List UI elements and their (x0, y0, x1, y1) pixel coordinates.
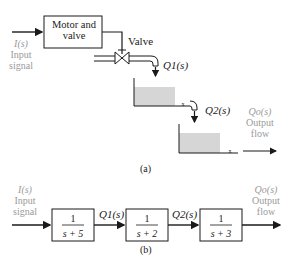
input-label-b: I(s) Input signal (8, 184, 42, 217)
block-3-num: 1 (200, 213, 242, 224)
output-label-a: Qo(s) Output flow (244, 106, 276, 139)
valve-actuator-line (102, 32, 122, 54)
q1-label-a: Q1(s) (163, 60, 188, 71)
valve-label: Valve (128, 36, 153, 47)
block-2-den: s + 2 (126, 228, 168, 239)
caption-a: (a) (140, 163, 151, 174)
output-symbol-b: Qo(s) (248, 184, 284, 195)
motor-box-label: Motor and valve (51, 19, 97, 41)
q1-label-b: Q1(s) (99, 209, 124, 220)
output-line2-b: flow (248, 206, 284, 217)
output-line1-b: Output (248, 195, 284, 206)
input-line1-b: Input (8, 195, 42, 206)
q2-label-a: Q2(s) (205, 105, 230, 116)
block-3-den: s + 3 (200, 228, 242, 239)
block-1-num: 1 (52, 213, 94, 224)
output-symbol: Qo(s) (244, 106, 276, 117)
block-2-num: 1 (126, 213, 168, 224)
svg-text:x: x (229, 148, 232, 154)
output-line1: Output (244, 117, 276, 128)
motor-line-1: Motor and (51, 19, 97, 30)
caption-b: (b) (140, 244, 152, 255)
input-line2-b: signal (8, 206, 42, 217)
input-symbol: I(s) (6, 38, 36, 49)
motor-line-2: valve (51, 30, 97, 41)
output-line2: flow (244, 128, 276, 139)
q2-label-b: Q2(s) (172, 209, 197, 220)
svg-text:x: x (182, 101, 185, 107)
input-symbol-b: I(s) (8, 184, 42, 195)
input-label-a: I(s) Input signal (6, 38, 36, 71)
output-label-b: Qo(s) Output flow (248, 184, 284, 217)
block-1-den: s + 5 (52, 228, 94, 239)
input-line2: signal (6, 60, 36, 71)
inlet-pipe (129, 56, 158, 66)
input-line1: Input (6, 49, 36, 60)
